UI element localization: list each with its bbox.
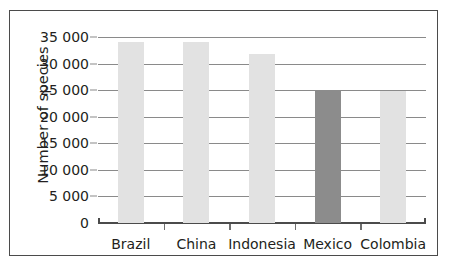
gridline xyxy=(98,37,426,38)
y-axis-tick-label: 20 000 xyxy=(40,109,89,125)
x-axis-left-cap xyxy=(98,218,100,224)
y-axis-tick-mark xyxy=(90,116,97,117)
y-axis-tick-label: 30 000 xyxy=(40,56,89,72)
chart-figure: Number of species 05 00010 00015 00020 0… xyxy=(0,0,450,271)
y-axis-tick-label: 0 xyxy=(80,215,89,231)
y-axis-tick-label: 25 000 xyxy=(40,82,89,98)
x-axis-tick-mark xyxy=(164,224,166,230)
x-axis-tick-mark xyxy=(229,224,231,230)
x-axis-right-cap xyxy=(424,218,426,224)
plot-area: 05 00010 00015 00020 00025 00030 00035 0… xyxy=(98,37,426,223)
x-axis-category-label: China xyxy=(176,236,216,252)
x-axis-category-label: Colombia xyxy=(360,236,426,252)
bar-indonesia xyxy=(249,54,275,223)
x-axis-category-label: Brazil xyxy=(111,236,150,252)
x-axis-category-label: Mexico xyxy=(303,236,352,252)
bar-mexico xyxy=(315,90,341,223)
x-axis-tick-mark xyxy=(295,224,297,230)
y-axis-tick-mark xyxy=(90,90,97,91)
y-axis-tick-mark xyxy=(90,143,97,144)
y-axis-tick-label: 5 000 xyxy=(49,188,89,204)
y-axis-tick-label: 35 000 xyxy=(40,29,89,45)
bar-colombia xyxy=(380,91,406,223)
y-axis-tick-mark xyxy=(90,37,97,38)
chart-frame: Number of species 05 00010 00015 00020 0… xyxy=(9,10,438,256)
y-axis-tick-label: 15 000 xyxy=(40,135,89,151)
x-axis-tick-mark xyxy=(360,224,362,230)
y-axis-tick-mark xyxy=(90,63,97,64)
bar-brazil xyxy=(118,42,144,223)
y-axis-tick-mark xyxy=(90,196,97,197)
y-axis-tick-mark xyxy=(90,169,97,170)
bar-china xyxy=(183,42,209,223)
x-axis-category-label: Indonesia xyxy=(228,236,296,252)
y-axis-tick-label: 10 000 xyxy=(40,162,89,178)
